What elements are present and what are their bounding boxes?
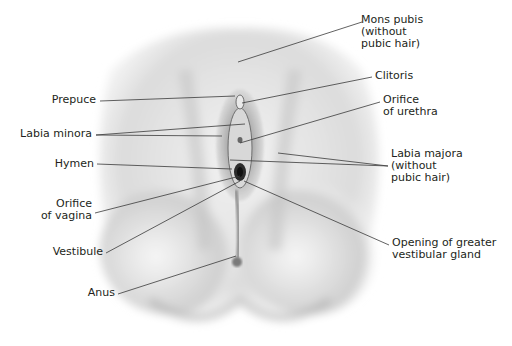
label-vestibule: Vestibule: [20, 246, 103, 258]
label-clitoris: Clitoris: [375, 70, 413, 82]
label-orifice-of-vagina: Orifice of vagina: [20, 198, 92, 222]
label-orifice-of-urethra: Orifice of urethra: [383, 94, 438, 118]
label-prepuce: Prepuce: [16, 94, 96, 106]
label-anus: Anus: [60, 287, 115, 299]
label-labia-minora: Labia minora: [0, 128, 92, 140]
label-labia-majora: Labia majora (without pubic hair): [391, 148, 463, 184]
label-mons-pubis: Mons pubis (without pubic hair): [361, 14, 423, 50]
label-hymen: Hymen: [20, 158, 94, 170]
anatomy-diagram: Mons pubis (without pubic hair) Clitoris…: [0, 0, 512, 346]
label-opening-greater-vestibular-gland: Opening of greater vestibular gland: [392, 237, 496, 261]
